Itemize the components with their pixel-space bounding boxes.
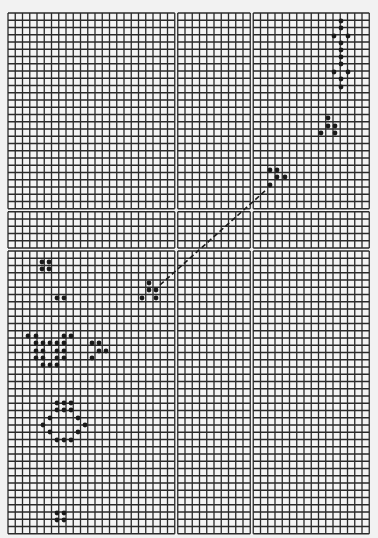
cell-dot bbox=[34, 356, 39, 361]
cell-dot bbox=[40, 267, 45, 272]
cell-dot bbox=[62, 334, 67, 339]
cell-dot bbox=[40, 260, 45, 265]
cell-dot bbox=[339, 19, 344, 24]
cell-dot bbox=[55, 356, 60, 361]
grid-block bbox=[8, 212, 175, 248]
cell-dot bbox=[62, 438, 67, 443]
cell-dot bbox=[48, 416, 53, 421]
cell-dot bbox=[268, 183, 273, 188]
cell-dot bbox=[339, 41, 344, 46]
cell-dot bbox=[104, 349, 109, 354]
cell-dot bbox=[147, 288, 152, 293]
cell-dot bbox=[332, 70, 337, 75]
cell-dot bbox=[62, 341, 67, 346]
cell-dot bbox=[34, 341, 39, 346]
cell-dot bbox=[326, 116, 331, 121]
cell-dot bbox=[76, 430, 81, 435]
cell-dot bbox=[154, 296, 159, 301]
cell-dot bbox=[339, 77, 344, 82]
cell-dot bbox=[69, 408, 74, 413]
cell-dot bbox=[97, 349, 102, 354]
cell-dot bbox=[62, 518, 67, 523]
cell-dot bbox=[55, 438, 60, 443]
cell-dot bbox=[48, 363, 53, 368]
cell-dot bbox=[326, 124, 331, 129]
cell-dot bbox=[62, 296, 67, 301]
cell-dot bbox=[275, 168, 280, 173]
cell-dot bbox=[55, 341, 60, 346]
cell-dot bbox=[333, 124, 338, 129]
cell-dot bbox=[339, 85, 344, 90]
grid-diagram bbox=[0, 0, 378, 538]
cell-dot bbox=[97, 341, 102, 346]
cell-dot bbox=[41, 423, 46, 428]
cell-dot bbox=[319, 131, 324, 136]
cell-dot bbox=[346, 34, 351, 39]
cell-dot bbox=[55, 296, 60, 301]
cell-dot bbox=[62, 349, 67, 354]
grid-block bbox=[8, 251, 175, 534]
cell-dot bbox=[41, 349, 46, 354]
cell-dot bbox=[26, 334, 31, 339]
cell-dot bbox=[55, 349, 60, 354]
cell-dot bbox=[55, 401, 60, 406]
cell-dot bbox=[333, 131, 338, 136]
cell-dot bbox=[140, 296, 145, 301]
cell-dot bbox=[268, 168, 273, 173]
cell-dot bbox=[69, 438, 74, 443]
cell-dot bbox=[55, 408, 60, 413]
cell-dot bbox=[47, 267, 52, 272]
cell-dot bbox=[62, 356, 67, 361]
cell-dot bbox=[90, 356, 95, 361]
cell-dot bbox=[55, 518, 60, 523]
cell-dot bbox=[283, 175, 288, 180]
cell-dot bbox=[346, 70, 351, 75]
cell-dot bbox=[62, 408, 67, 413]
cell-dot bbox=[62, 401, 67, 406]
cell-dot bbox=[34, 334, 39, 339]
cell-dot bbox=[339, 48, 344, 53]
cell-dot bbox=[76, 416, 81, 421]
cell-dot bbox=[41, 356, 46, 361]
cell-dot bbox=[339, 62, 344, 67]
grid-lines bbox=[8, 13, 369, 534]
cell-dot bbox=[55, 511, 60, 516]
cell-dot bbox=[55, 363, 60, 368]
cell-dot bbox=[69, 334, 74, 339]
cell-dot bbox=[48, 341, 53, 346]
cell-dot bbox=[90, 341, 95, 346]
cell-dot bbox=[48, 430, 53, 435]
cell-dot bbox=[154, 288, 159, 293]
cell-dot bbox=[34, 349, 39, 354]
cell-dot bbox=[69, 401, 74, 406]
cell-dot bbox=[83, 423, 88, 428]
cell-dot bbox=[147, 281, 152, 286]
cell-dot bbox=[47, 260, 52, 265]
cell-dot bbox=[339, 26, 344, 31]
cell-dot bbox=[62, 511, 67, 516]
cell-dot bbox=[339, 55, 344, 60]
cell-dot bbox=[332, 34, 337, 39]
cell-dot bbox=[275, 175, 280, 180]
cell-dot bbox=[41, 341, 46, 346]
cell-dot bbox=[41, 363, 46, 368]
